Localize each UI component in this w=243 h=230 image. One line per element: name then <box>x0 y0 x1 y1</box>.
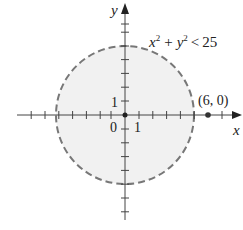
point-label: (6, 0) <box>198 93 229 109</box>
inequality-label: x2+y2<25 <box>148 33 217 50</box>
x-axis-arrow-icon <box>232 111 242 119</box>
x-axis-label: x <box>232 122 240 138</box>
point-6-0 <box>205 112 211 118</box>
origin-label: 0 <box>110 120 117 135</box>
y-unit-label: 1 <box>111 95 118 110</box>
y-axis-arrow-icon <box>121 3 129 14</box>
origin-point <box>123 113 128 118</box>
x-unit-label: 1 <box>134 120 141 135</box>
coordinate-plane: y x 0 1 1 (6, 0) x2+y2<25 <box>0 0 243 230</box>
y-axis-label: y <box>109 2 118 18</box>
